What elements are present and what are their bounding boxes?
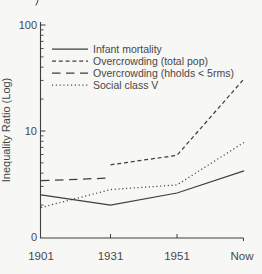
series-line xyxy=(41,178,111,181)
cropped-text-fragment xyxy=(36,0,38,6)
series-line xyxy=(111,79,245,165)
y-tick-label: 100 xyxy=(19,19,37,31)
x-tick-label: 1931 xyxy=(98,250,124,262)
figure: 100100190119311951NowInequality Ratio (L… xyxy=(0,0,262,274)
y-tick-label: 10 xyxy=(25,125,37,137)
y-axis-title: Inequality Ratio (Log) xyxy=(0,78,12,183)
y-tick-label: 0 xyxy=(31,231,37,243)
legend-label: Social class V xyxy=(93,79,158,91)
x-tick-label: 1951 xyxy=(164,250,190,262)
x-tick-label: 1901 xyxy=(28,250,54,262)
x-tick-label: Now xyxy=(230,250,254,262)
series-line xyxy=(41,142,244,207)
legend-label: Infant mortality xyxy=(93,43,163,55)
line-chart: 100100190119311951NowInequality Ratio (L… xyxy=(0,0,262,274)
legend-label: Overcrowding (hholds < 5rms) xyxy=(93,67,234,79)
legend-label: Overcrowding (total pop) xyxy=(93,55,208,67)
